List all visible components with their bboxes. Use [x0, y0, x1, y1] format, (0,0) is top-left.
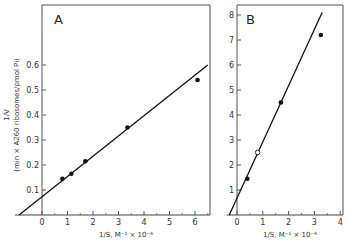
y-tick-label: 3 — [229, 136, 234, 145]
fit-line — [19, 65, 208, 215]
x-tick-label: 4 — [141, 218, 146, 227]
x-tick-label: 0 — [234, 218, 239, 227]
x-tick-label: 0 — [39, 218, 44, 227]
y-axis-units: (min × A260 ribosomes/pmol Pi) — [13, 58, 21, 172]
fit-line — [229, 13, 322, 216]
data-point — [125, 125, 130, 130]
chart-figure: 01234560.10.20.30.40.50.61/S, M⁻¹ × 10⁻⁶… — [0, 0, 350, 243]
x-tick-label: 4 — [338, 218, 343, 227]
data-point — [245, 176, 250, 181]
x-tick-label: 2 — [90, 218, 95, 227]
data-point — [60, 176, 65, 181]
data-point-open — [255, 150, 260, 155]
y-tick-label: 0.2 — [26, 161, 39, 170]
y-tick-label: 0.6 — [26, 61, 39, 70]
y-tick-label: 0.5 — [26, 86, 39, 95]
y-tick-label: 2 — [229, 161, 234, 170]
data-point — [83, 159, 88, 164]
panel-label: B — [246, 12, 255, 27]
x-axis-label: 1/S, M⁻¹ × 10⁻⁶ — [99, 231, 153, 239]
data-point — [279, 100, 284, 105]
y-tick-label: 0.1 — [26, 186, 39, 195]
y-tick-label: 0.3 — [26, 136, 39, 145]
y-axis-label: 1/V — [3, 109, 11, 121]
y-tick-label: 0.4 — [26, 111, 39, 120]
x-tick-label: 3 — [116, 218, 121, 227]
data-point — [69, 171, 74, 176]
y-tick-label: 1 — [229, 186, 234, 195]
panel-label: A — [54, 12, 63, 27]
y-tick-label: 8 — [229, 11, 234, 20]
panel-b: 01234123456781/S, M⁻¹ × 10⁻⁶B — [227, 5, 343, 239]
x-tick-label: 1 — [65, 218, 70, 227]
x-tick-label: 6 — [192, 218, 197, 227]
x-tick-label: 1 — [260, 218, 265, 227]
y-tick-label: 6 — [229, 61, 234, 70]
data-point — [195, 78, 200, 83]
panel-a: 01234560.10.20.30.40.50.61/S, M⁻¹ × 10⁻⁶… — [3, 5, 210, 239]
x-tick-label: 3 — [312, 218, 317, 227]
x-tick-label: 2 — [286, 218, 291, 227]
y-tick-label: 5 — [229, 86, 234, 95]
x-axis-label: 1/S, M⁻¹ × 10⁻⁶ — [263, 231, 317, 239]
data-point — [319, 33, 324, 38]
x-tick-label: 5 — [167, 218, 172, 227]
y-tick-label: 7 — [229, 36, 234, 45]
y-tick-label: 4 — [229, 111, 234, 120]
